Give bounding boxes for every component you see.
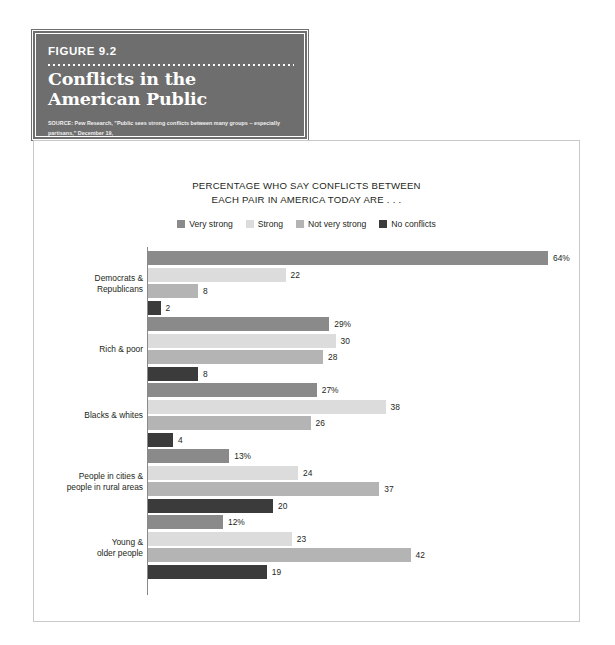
- bar-value-label: 30: [341, 336, 350, 346]
- chart-title-line: PERCENTAGE WHO SAY CONFLICTS BETWEEN: [34, 179, 579, 193]
- legend-item-strong[interactable]: Strong: [246, 219, 283, 229]
- bar-value-label: 37: [384, 484, 393, 494]
- bar-value-label: 28: [328, 352, 337, 362]
- bar-group: Young &older people12%234219: [34, 515, 579, 581]
- bar-value-label: 12%: [228, 517, 245, 527]
- legend-item-no-conflicts[interactable]: No conflicts: [379, 219, 435, 229]
- bar-not-very-strong[interactable]: [148, 350, 323, 364]
- bar-row[interactable]: 20: [148, 499, 579, 513]
- bar-row[interactable]: 38: [148, 400, 579, 414]
- bar-strong[interactable]: [148, 268, 286, 282]
- bar-row[interactable]: 19: [148, 565, 579, 579]
- dotted-divider: [48, 62, 294, 67]
- bar-value-label: 2: [166, 303, 171, 313]
- bar-very-strong[interactable]: [148, 251, 548, 265]
- category-label-line: Republicans: [95, 284, 143, 295]
- category-label-line: people in rural areas: [67, 482, 143, 493]
- chart-panel: PERCENTAGE WHO SAY CONFLICTS BETWEEN EAC…: [33, 140, 580, 622]
- legend-swatch-icon: [177, 220, 185, 228]
- category-label: Rich & poor: [99, 344, 143, 355]
- bar-value-label: 64%: [553, 253, 570, 263]
- bar-row[interactable]: 22: [148, 268, 579, 282]
- bar-not-very-strong[interactable]: [148, 284, 198, 298]
- bar-value-label: 38: [391, 402, 400, 412]
- bar-value-label: 24: [303, 468, 312, 478]
- bar-row[interactable]: 8: [148, 284, 579, 298]
- bar-group: Democrats &Republicans64%2282: [34, 251, 579, 317]
- bar-row[interactable]: 28: [148, 350, 579, 364]
- bar-not-very-strong[interactable]: [148, 416, 311, 430]
- bar-row[interactable]: 24: [148, 466, 579, 480]
- bar-row[interactable]: 42: [148, 548, 579, 562]
- bar-no-conflicts[interactable]: [148, 499, 273, 513]
- bar-row[interactable]: 12%: [148, 515, 579, 529]
- bar-row[interactable]: 4: [148, 433, 579, 447]
- legend-item-not-very-strong[interactable]: Not very strong: [296, 219, 366, 229]
- bar-very-strong[interactable]: [148, 449, 229, 463]
- category-label: People in cities &people in rural areas: [67, 471, 143, 494]
- bar-very-strong[interactable]: [148, 383, 317, 397]
- bar-row[interactable]: 37: [148, 482, 579, 496]
- legend-label: Very strong: [189, 219, 232, 229]
- chart-title: PERCENTAGE WHO SAY CONFLICTS BETWEEN EAC…: [34, 179, 579, 207]
- bar-value-label: 42: [416, 550, 425, 560]
- bar-very-strong[interactable]: [148, 317, 329, 331]
- bar-row[interactable]: 23: [148, 532, 579, 546]
- bar-value-label: 8: [203, 286, 208, 296]
- bar-row[interactable]: 27%: [148, 383, 579, 397]
- bar-row[interactable]: 13%: [148, 449, 579, 463]
- bar-value-label: 29%: [334, 319, 351, 329]
- bar-not-very-strong[interactable]: [148, 482, 379, 496]
- bar-value-label: 26: [316, 418, 325, 428]
- bar-strong[interactable]: [148, 466, 298, 480]
- bar-stack: 64%2282: [148, 251, 579, 317]
- bar-row[interactable]: 29%: [148, 317, 579, 331]
- bar-group: Blacks & whites27%38264: [34, 383, 579, 449]
- category-label: Democrats &Republicans: [95, 273, 143, 296]
- bar-strong[interactable]: [148, 532, 292, 546]
- legend-label: Not very strong: [308, 219, 366, 229]
- bar-very-strong[interactable]: [148, 515, 223, 529]
- legend-item-very-strong[interactable]: Very strong: [177, 219, 232, 229]
- category-label-line: Democrats &: [95, 273, 143, 284]
- bar-strong[interactable]: [148, 400, 386, 414]
- bar-strong[interactable]: [148, 334, 336, 348]
- bar-value-label: 8: [203, 369, 208, 379]
- bar-stack: 27%38264: [148, 383, 579, 449]
- bar-row[interactable]: 8: [148, 367, 579, 381]
- bar-not-very-strong[interactable]: [148, 548, 411, 562]
- bar-no-conflicts[interactable]: [148, 367, 198, 381]
- bar-no-conflicts[interactable]: [148, 433, 173, 447]
- bar-group: Rich & poor29%30288: [34, 317, 579, 383]
- bar-no-conflicts[interactable]: [148, 565, 267, 579]
- legend-swatch-icon: [379, 220, 387, 228]
- chart-title-line: EACH PAIR IN AMERICA TODAY ARE . . .: [34, 193, 579, 207]
- bar-no-conflicts[interactable]: [148, 301, 161, 315]
- category-label-line: Rich & poor: [99, 344, 143, 355]
- bar-stack: 13%243720: [148, 449, 579, 515]
- bar-row[interactable]: 64%: [148, 251, 579, 265]
- legend-swatch-icon: [296, 220, 304, 228]
- legend-swatch-icon: [246, 220, 254, 228]
- figure-header: FIGURE 9.2 Conflicts in the American Pub…: [35, 33, 305, 137]
- bar-value-label: 4: [178, 435, 183, 445]
- chart-legend: Very strongStrongNot very strongNo confl…: [34, 219, 579, 229]
- category-label-line: Blacks & whites: [84, 410, 143, 421]
- bar-value-label: 13%: [234, 451, 251, 461]
- category-label-line: older people: [97, 548, 143, 559]
- legend-label: No conflicts: [391, 219, 435, 229]
- bar-row[interactable]: 26: [148, 416, 579, 430]
- bar-value-label: 23: [297, 534, 306, 544]
- bar-row[interactable]: 30: [148, 334, 579, 348]
- legend-label: Strong: [258, 219, 283, 229]
- bar-row[interactable]: 2: [148, 301, 579, 315]
- category-label-line: People in cities &: [67, 471, 143, 482]
- figure-title: Conflicts in the American Public: [48, 69, 294, 109]
- bar-value-label: 20: [278, 501, 287, 511]
- category-label: Young &older people: [97, 537, 143, 560]
- bar-value-label: 19: [272, 567, 281, 577]
- bar-value-label: 22: [291, 270, 300, 280]
- bar-value-label: 27%: [322, 385, 339, 395]
- chart-plot-area: Democrats &Republicans64%2282Rich & poor…: [34, 245, 579, 617]
- bar-stack: 29%30288: [148, 317, 579, 383]
